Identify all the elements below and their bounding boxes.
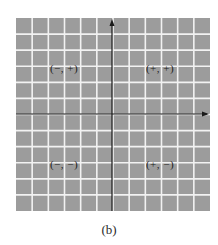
quadrant-i-label: (+, +) (146, 62, 174, 74)
quadrant-ii-label: (−, +) (50, 62, 78, 74)
quadrant-iv-label: (+, −) (146, 158, 174, 170)
quadrant-iii-label: (−, −) (50, 158, 78, 170)
figure-caption: (b) (0, 222, 218, 238)
coordinate-grid (0, 0, 218, 245)
coordinate-plane-figure: (−, +) (+, +) (−, −) (+, −) (b) (0, 0, 218, 245)
